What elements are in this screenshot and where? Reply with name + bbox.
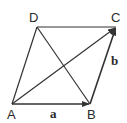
- vector-label-b: b: [111, 53, 118, 68]
- vertex-label-b: B: [87, 107, 96, 122]
- vertex-label-a: A: [7, 107, 16, 122]
- vertex-label-c: C: [111, 10, 120, 25]
- vector-label-a: a: [50, 106, 57, 121]
- parallelogram-diagram: D C A B a b: [0, 0, 127, 123]
- vector-ac-arrow: [12, 28, 115, 104]
- edge-ad: [12, 27, 37, 104]
- vertex-label-d: D: [29, 10, 38, 25]
